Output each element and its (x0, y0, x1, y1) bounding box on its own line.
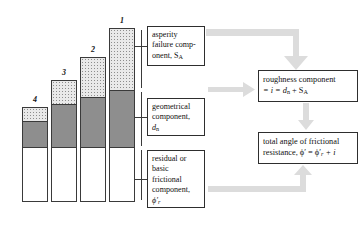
result-roughness-eq-prefix: = i = d (263, 86, 287, 95)
callout-geometrical-line-2: component, (152, 112, 200, 122)
callout-asperity-failure-component: asperity failure comp- onent, SA (147, 26, 205, 66)
arrow-roughness-to-total (298, 103, 314, 130)
result-total-eq-suffix: + i (323, 148, 335, 157)
bar-1 (109, 28, 135, 202)
bar-1-geometrical-segment (110, 91, 134, 148)
callout-residual-line-2: basic (152, 164, 200, 174)
bar-2-residual-segment (81, 148, 105, 201)
result-roughness-line-2: = i = dn + SA (263, 85, 353, 97)
leader-geometrical-vertical (141, 92, 142, 146)
bar-1-asperity-segment (110, 29, 134, 91)
bar-label-4: 4 (22, 95, 48, 104)
bar-4-asperity-segment (23, 108, 47, 122)
bar-3-geometrical-segment (52, 105, 76, 148)
figure-canvas: 4 3 2 1 asperity failure comp- onent, SA (0, 0, 364, 227)
result-total-angle-of-frictional-resistance: total angle of frictional resistance, ϕ′… (258, 132, 358, 164)
callout-residual-line-3: frictional (152, 175, 200, 185)
callout-residual-symbol-line: ϕ′r (152, 196, 200, 208)
bar-4 (22, 107, 48, 202)
callout-geometrical-line-1: geometrical (152, 102, 200, 112)
callout-geometrical-component: geometrical component, dn (147, 98, 205, 136)
bar-1-residual-segment (110, 148, 134, 201)
bar-3-residual-segment (52, 148, 76, 201)
result-total-line-1: total angle of frictional (263, 136, 353, 147)
bar-2-geometrical-segment (81, 98, 105, 148)
bar-label-1: 1 (109, 16, 135, 25)
callout-asperity-line-2: failure comp- (152, 40, 200, 50)
result-roughness-line-1: roughness component (263, 74, 353, 85)
result-roughness-component: roughness component = i = dn + SA (258, 70, 358, 102)
result-total-eq-prefix: resistance, ϕ′ = ϕ′ (263, 148, 321, 157)
arrow-residual-to-total (208, 165, 312, 192)
callout-residual-frictional-component: residual or basic frictional component, … (147, 150, 205, 208)
callout-asperity-line-3-text: onent, S (152, 51, 179, 60)
callout-geometrical-symbol-line: dn (152, 123, 200, 135)
bar-4-residual-segment (23, 148, 47, 201)
callout-residual-line-1: residual or (152, 154, 200, 164)
bar-2 (80, 57, 106, 202)
callout-asperity-line-1: asperity (152, 30, 200, 40)
callout-residual-line-4: component, (152, 185, 200, 195)
callout-asperity-line-3: onent, SA (152, 51, 200, 63)
leader-residual-vertical (141, 150, 142, 200)
bar-label-3: 3 (51, 68, 77, 77)
result-roughness-sub-a: A (303, 88, 307, 95)
callout-residual-subscript: r (158, 198, 160, 205)
arrow-asperity-to-roughness (206, 29, 308, 70)
callout-asperity-subscript: A (179, 53, 183, 60)
bar-3 (51, 80, 77, 202)
result-roughness-eq-mid: + S (290, 86, 303, 95)
result-total-line-2: resistance, ϕ′ = ϕ′r + i (263, 147, 353, 159)
bar-4-geometrical-segment (23, 122, 47, 148)
bar-3-asperity-segment (52, 81, 76, 105)
leader-asperity-vertical (141, 30, 142, 88)
arrow-geometrical-to-roughness (208, 82, 255, 97)
bar-2-asperity-segment (81, 58, 105, 98)
bar-label-2: 2 (80, 45, 106, 54)
callout-geometrical-subscript: n (156, 125, 159, 132)
